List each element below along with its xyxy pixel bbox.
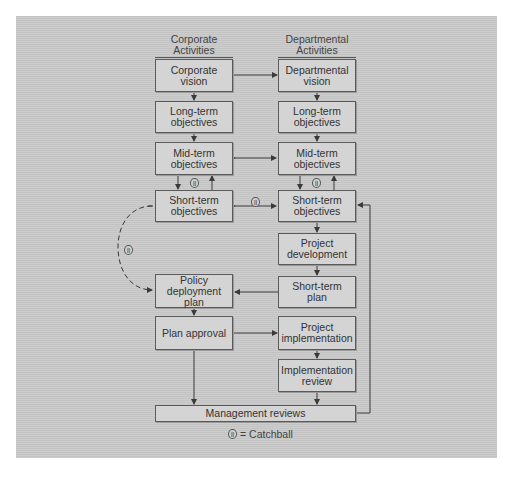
box-implementation-review: Implementation review [278,359,356,392]
catchball-icon: ll [251,197,260,207]
legend: ll = Catchball [228,428,293,440]
box-departmental-mid-term: Mid-term objectives [278,142,356,175]
box-departmental-long-term: Long-term objectives [278,101,356,133]
box-management-reviews: Management reviews [155,405,356,422]
box-project-implementation: Project implementation [278,316,356,350]
box-plan-approval: Plan approval [155,316,233,350]
catchball-icon: ll [312,178,321,188]
box-project-development: Project development [278,233,356,265]
box-departmental-short-term: Short-term objectives [278,190,356,222]
catchball-icon: ll [190,178,199,188]
box-corporate-mid-term: Mid-term objectives [155,142,233,175]
legend-text: = Catchball [240,428,293,440]
box-policy-deployment-plan: Policy deployment plan [155,274,233,308]
box-short-term-plan: Short-term plan [278,276,356,308]
header-corporate-activities: Corporate Activities [155,34,233,58]
catchball-icon: ll [124,245,133,255]
box-departmental-vision: Departmental vision [278,59,356,92]
catchball-legend-icon: ll [228,429,237,439]
box-corporate-vision: Corporate vision [155,59,233,92]
box-corporate-long-term: Long-term objectives [155,101,233,133]
header-departmental-activities: Departmental Activities [278,34,356,58]
box-corporate-short-term: Short-term objectives [155,190,233,222]
feedback-loop-arrow [356,205,370,413]
